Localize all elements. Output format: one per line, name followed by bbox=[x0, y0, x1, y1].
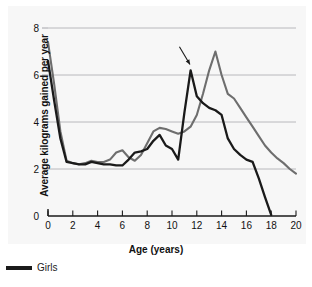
chart-legend: Girls bbox=[6, 262, 58, 273]
annotations-group bbox=[179, 47, 190, 65]
x-tick-label-18: 18 bbox=[266, 220, 278, 231]
x-axis-group: 02468101214161820 bbox=[45, 209, 302, 231]
x-tick-label-8: 8 bbox=[144, 220, 150, 231]
x-tick-label-12: 12 bbox=[191, 220, 203, 231]
series-line-boys bbox=[48, 42, 296, 174]
series-line-girls bbox=[48, 61, 271, 215]
data-series-group bbox=[48, 42, 296, 215]
x-axis-title: Age (years) bbox=[0, 244, 312, 255]
x-tick-label-20: 20 bbox=[290, 220, 302, 231]
x-tick-label-16: 16 bbox=[241, 220, 253, 231]
x-tick-label-10: 10 bbox=[166, 220, 178, 231]
x-tick-label-14: 14 bbox=[216, 220, 228, 231]
plot-area: 02468 02468101214161820 Average kilogram… bbox=[8, 6, 306, 244]
legend-line-swatch-girls bbox=[6, 266, 32, 270]
x-tick-label-4: 4 bbox=[95, 220, 101, 231]
legend-label-girls: Girls bbox=[37, 262, 58, 273]
line-chart-svg: 02468 02468101214161820 bbox=[8, 6, 306, 244]
x-tick-label-6: 6 bbox=[120, 220, 126, 231]
x-tick-label-2: 2 bbox=[70, 220, 76, 231]
x-tick-label-0: 0 bbox=[45, 220, 51, 231]
y-axis-title: Average kilograms gained per year bbox=[39, 16, 50, 216]
chart-figure: 02468 02468101214161820 Average kilogram… bbox=[0, 0, 312, 287]
